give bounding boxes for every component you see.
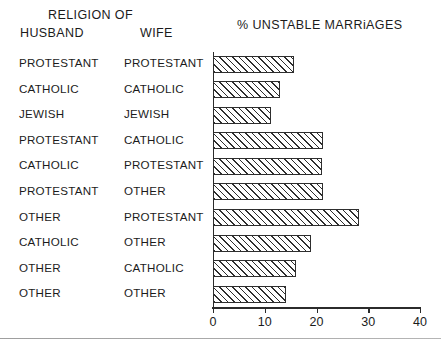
- bar-row: [213, 282, 420, 308]
- wife-religion-label: PROTESTANT: [124, 210, 204, 223]
- plot-area: [213, 52, 420, 308]
- x-axis-tick: [420, 307, 421, 313]
- bar-row: [213, 180, 420, 206]
- wife-religion-label: CATHOLIC: [124, 261, 184, 274]
- bar-row: [213, 231, 420, 257]
- page-edge-artifact: [0, 338, 441, 339]
- category-label-row: OTHEROTHER: [0, 282, 213, 308]
- category-label-row: OTHERPROTESTANT: [0, 206, 213, 232]
- column-header-husband: HUSBAND: [20, 26, 84, 40]
- bar-row: [213, 154, 420, 180]
- category-label-row: CATHOLICPROTESTANT: [0, 154, 213, 180]
- bar: [213, 56, 294, 73]
- bar: [213, 158, 322, 175]
- category-label-row: OTHERCATHOLIC: [0, 257, 213, 283]
- husband-religion-label: JEWISH: [19, 107, 64, 120]
- x-axis-tick-label: 40: [413, 315, 427, 329]
- category-label-row: CATHOLICCATHOLIC: [0, 78, 213, 104]
- bar: [213, 107, 271, 124]
- bar-row: [213, 52, 420, 78]
- wife-religion-label: JEWISH: [124, 107, 169, 120]
- bar: [213, 286, 286, 303]
- category-label-row: PROTESTANTCATHOLIC: [0, 129, 213, 155]
- category-label-column: PROTESTANTPROTESTANTCATHOLICCATHOLICJEWI…: [0, 52, 213, 308]
- wife-religion-label: OTHER: [124, 286, 166, 299]
- bar-series: [213, 52, 420, 308]
- x-axis-tick: [317, 307, 318, 313]
- bar: [213, 260, 296, 277]
- husband-religion-label: OTHER: [19, 286, 61, 299]
- bar-row: [213, 129, 420, 155]
- x-axis-tick-label: 10: [258, 315, 272, 329]
- wife-religion-label: PROTESTANT: [124, 56, 204, 69]
- x-axis-tick: [265, 307, 266, 313]
- bar: [213, 209, 359, 226]
- x-axis-tick-label: 20: [310, 315, 324, 329]
- husband-religion-label: PROTESTANT: [19, 56, 99, 69]
- wife-religion-label: CATHOLIC: [124, 82, 184, 95]
- husband-religion-label: PROTESTANT: [19, 184, 99, 197]
- category-label-row: JEWISHJEWISH: [0, 103, 213, 129]
- category-label-row: PROTESTANTPROTESTANT: [0, 52, 213, 78]
- wife-religion-label: PROTESTANT: [124, 158, 204, 171]
- bar: [213, 81, 280, 98]
- wife-religion-label: OTHER: [124, 184, 166, 197]
- bar-row: [213, 78, 420, 104]
- x-axis-tick: [368, 307, 369, 313]
- group-header-religion-of: RELIGION OF: [48, 8, 133, 22]
- chart-title: % UNSTABLE MARRiAGES: [237, 18, 402, 32]
- husband-religion-label: CATHOLIC: [19, 158, 79, 171]
- bar-row: [213, 103, 420, 129]
- chart-figure: RELIGION OF HUSBAND WIFE % UNSTABLE MARR…: [0, 0, 441, 347]
- wife-religion-label: OTHER: [124, 235, 166, 248]
- husband-religion-label: OTHER: [19, 210, 61, 223]
- column-header-wife: WIFE: [140, 26, 173, 40]
- wife-religion-label: CATHOLIC: [124, 133, 184, 146]
- category-label-row: PROTESTANTOTHER: [0, 180, 213, 206]
- husband-religion-label: OTHER: [19, 261, 61, 274]
- x-axis-tick-label: 0: [210, 315, 217, 329]
- husband-religion-label: PROTESTANT: [19, 133, 99, 146]
- category-label-row: CATHOLICOTHER: [0, 231, 213, 257]
- x-axis-tick-label: 30: [361, 315, 375, 329]
- bar-row: [213, 206, 420, 232]
- bar: [213, 235, 311, 252]
- x-axis-tick: [213, 307, 214, 313]
- bar: [213, 183, 323, 200]
- husband-religion-label: CATHOLIC: [19, 235, 79, 248]
- bar: [213, 132, 323, 149]
- bar-row: [213, 257, 420, 283]
- husband-religion-label: CATHOLIC: [19, 82, 79, 95]
